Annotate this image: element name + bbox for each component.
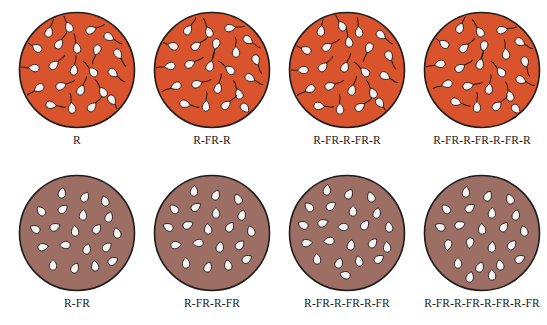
panel: R-FR-R-FR-R-FR <box>282 173 412 310</box>
panel-label: R-FR <box>64 296 90 310</box>
panel: R-FR-R <box>147 10 277 147</box>
disc-container <box>17 173 137 293</box>
panel: R-FR-R-FR-R-FR-R-FR <box>417 173 547 310</box>
disc-svg <box>287 173 407 293</box>
panel: R-FR-R-FR-R-FR-R <box>417 10 547 147</box>
disc-svg <box>152 173 272 293</box>
panel: R <box>12 10 142 147</box>
panel-label: R-FR-R-FR-R-FR-R <box>433 133 530 147</box>
panel-row-bottom: R-FRR-FR-R-FRR-FR-R-FR-R-FRR-FR-R-FR-R-F… <box>0 173 547 310</box>
disc-container <box>422 173 542 293</box>
panel-label: R-FR-R <box>193 133 231 147</box>
disc-svg <box>152 10 272 130</box>
disc-svg <box>422 173 542 293</box>
panel: R-FR-R-FR <box>147 173 277 310</box>
disc-svg <box>422 10 542 130</box>
panel-row-top: RR-FR-RR-FR-R-FR-RR-FR-R-FR-R-FR-R <box>0 10 547 147</box>
panel: R-FR <box>12 173 142 310</box>
sperm-distribution-figure: RR-FR-RR-FR-R-FR-RR-FR-R-FR-R-FR-R R-FRR… <box>0 0 547 325</box>
disc-svg <box>17 173 137 293</box>
panel-label: R-FR-R-FR <box>184 296 240 310</box>
disc-container <box>152 10 272 130</box>
disc-svg <box>287 10 407 130</box>
panel: R-FR-R-FR-R <box>282 10 412 147</box>
disc-container <box>287 10 407 130</box>
panel-label: R-FR-R-FR-R-FR-R-FR <box>424 296 540 310</box>
panel-label: R-FR-R-FR-R <box>313 133 381 147</box>
disc-container <box>287 173 407 293</box>
disc-container <box>422 10 542 130</box>
panel-label: R <box>73 133 81 147</box>
disc-container <box>17 10 137 130</box>
disc-container <box>152 173 272 293</box>
panel-label: R-FR-R-FR-R-FR <box>304 296 390 310</box>
disc-svg <box>17 10 137 130</box>
